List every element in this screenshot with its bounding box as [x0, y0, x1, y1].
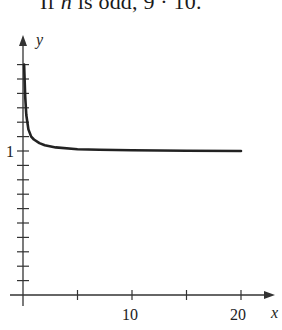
data-curve — [24, 65, 241, 151]
x-axis-arrow-icon — [264, 291, 275, 299]
y-axis-arrow-icon — [19, 35, 27, 46]
axes — [10, 35, 275, 306]
x-tick-label-20: 20 — [230, 306, 246, 323]
y-axis-label: y — [34, 31, 44, 49]
chart: x y 1 10 20 — [0, 0, 282, 330]
x-tick-label-10: 10 — [122, 306, 138, 323]
y-tick-label-1: 1 — [6, 143, 14, 160]
x-axis-label: x — [270, 304, 278, 321]
